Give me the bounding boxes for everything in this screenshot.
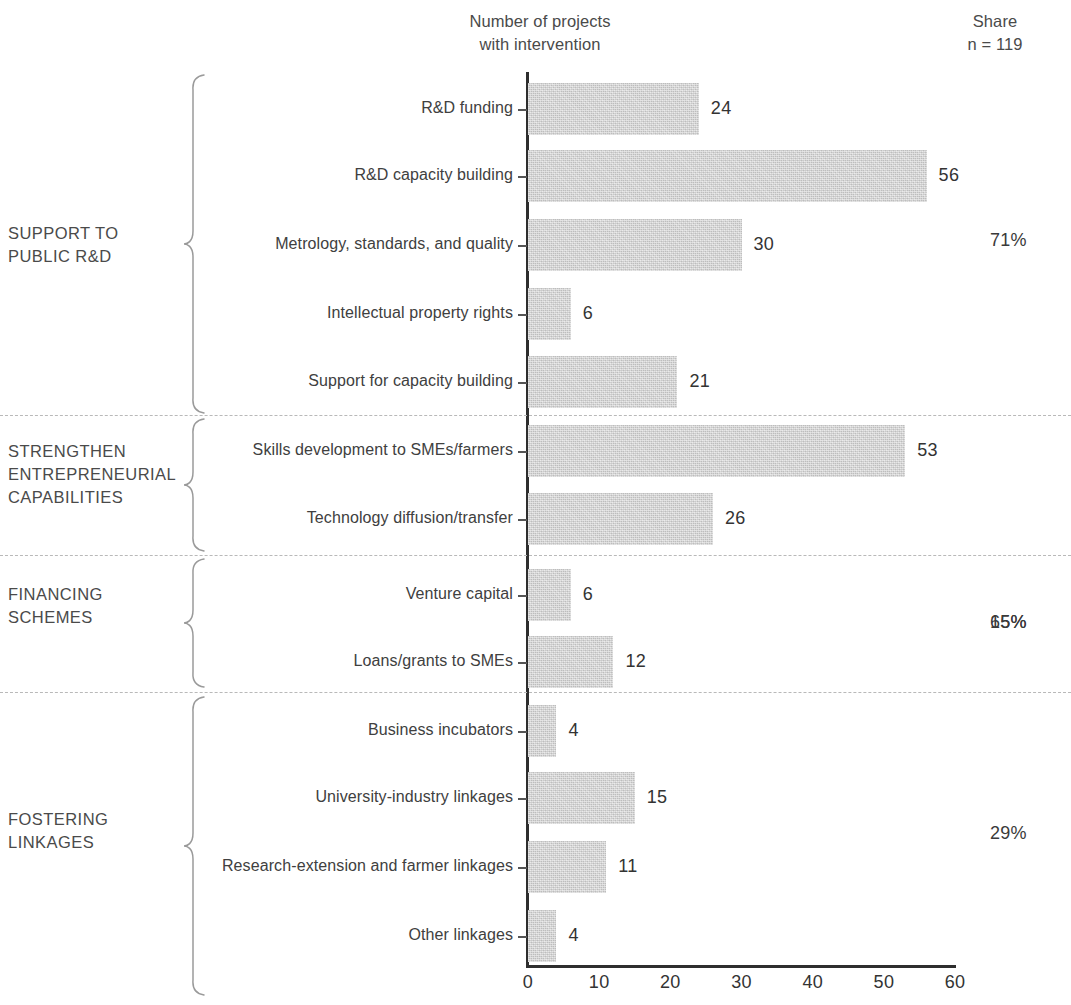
bar-value-label: 6 xyxy=(583,303,593,324)
x-tick-label: 60 xyxy=(935,972,975,993)
group-name: STRENGTHEN ENTREPRENEURIAL CAPABILITIES xyxy=(8,440,178,509)
group-separator xyxy=(0,555,1071,556)
x-tick-label: 40 xyxy=(793,972,833,993)
bar xyxy=(528,569,571,621)
group-brace xyxy=(183,418,205,552)
bar-value-label: 4 xyxy=(568,925,578,946)
category-tick xyxy=(518,245,527,247)
x-tick-label: 10 xyxy=(579,972,619,993)
bar xyxy=(528,493,713,545)
bar-value-label: 4 xyxy=(568,720,578,741)
plot-area: 24R&D funding56R&D capacity building30Me… xyxy=(0,0,1071,1005)
bar-value-label: 11 xyxy=(618,856,637,877)
group-name: FOSTERING LINKAGES xyxy=(8,808,178,854)
bar-value-label: 30 xyxy=(754,234,775,255)
x-tick-label: 20 xyxy=(650,972,690,993)
x-tick-label: 30 xyxy=(722,972,762,993)
category-label: Loans/grants to SMEs xyxy=(0,652,513,670)
bar xyxy=(528,288,571,340)
x-tick-label: 0 xyxy=(508,972,548,993)
category-tick xyxy=(518,314,527,316)
category-tick xyxy=(518,798,527,800)
category-tick xyxy=(518,936,527,938)
category-label: R&D capacity building xyxy=(0,166,513,184)
bar xyxy=(528,772,635,824)
category-tick xyxy=(518,731,527,733)
category-tick xyxy=(518,451,527,453)
group-separator xyxy=(0,415,1071,416)
category-label: Business incubators xyxy=(0,721,513,739)
category-label: University-industry linkages xyxy=(0,788,513,806)
bar-value-label: 53 xyxy=(917,440,938,461)
bar xyxy=(528,356,677,408)
x-axis-line xyxy=(526,965,956,968)
category-tick xyxy=(518,176,527,178)
bar-value-label: 21 xyxy=(689,371,710,392)
group-share-value: 29% xyxy=(990,823,1065,844)
category-label: Intellectual property rights xyxy=(0,304,513,322)
bar xyxy=(528,841,606,893)
category-label: Research-extension and farmer linkages xyxy=(0,857,513,875)
category-tick xyxy=(518,662,527,664)
x-tick-label: 50 xyxy=(864,972,904,993)
category-tick xyxy=(518,382,527,384)
bar xyxy=(528,219,742,271)
group-brace xyxy=(183,74,205,414)
group-brace xyxy=(183,696,205,996)
category-tick xyxy=(518,867,527,869)
group-separator xyxy=(0,692,1071,693)
bar xyxy=(528,910,556,962)
group-share-value: 15% xyxy=(990,612,1065,633)
bar-value-label: 56 xyxy=(939,165,960,186)
category-tick xyxy=(518,595,527,597)
group-name: FINANCING SCHEMES xyxy=(8,583,178,629)
group-brace xyxy=(183,558,205,688)
group-share-value: 71% xyxy=(990,230,1065,251)
bar xyxy=(528,705,556,757)
category-label: Technology diffusion/transfer xyxy=(0,509,513,527)
bar-value-label: 26 xyxy=(725,508,746,529)
category-label: Support for capacity building xyxy=(0,372,513,390)
bar xyxy=(528,636,613,688)
category-tick xyxy=(518,519,527,521)
category-label: R&D funding xyxy=(0,99,513,117)
group-name: SUPPORT TO PUBLIC R&D xyxy=(8,222,178,268)
bar xyxy=(528,150,927,202)
category-tick xyxy=(518,109,527,111)
bar xyxy=(528,425,905,477)
bar-value-label: 6 xyxy=(583,584,593,605)
bar xyxy=(528,83,699,135)
bar-value-label: 24 xyxy=(711,98,732,119)
chart-root: Number of projects with intervention Sha… xyxy=(0,0,1071,1005)
bar-value-label: 15 xyxy=(647,787,668,808)
bar-value-label: 12 xyxy=(625,651,646,672)
category-label: Other linkages xyxy=(0,926,513,944)
